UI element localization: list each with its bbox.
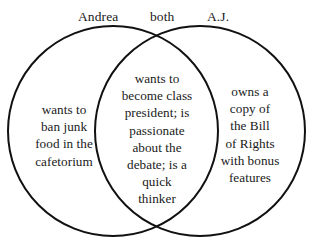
venn-region-intersection-text: wants tobecome classpresident; ispassion… xyxy=(108,70,206,208)
venn-region-left-text: wants toban junkfood in thecafetorium xyxy=(14,101,114,170)
venn-text-line: wants to xyxy=(108,70,206,87)
venn-text-line: about the xyxy=(108,139,206,156)
venn-text-line: passionate xyxy=(108,122,206,139)
venn-text-line: president; is xyxy=(108,104,206,121)
venn-text-line: quick xyxy=(108,173,206,190)
venn-diagram-page: Andrea both A.J. wants toban junkfood in… xyxy=(0,0,313,248)
venn-text-line: owns a xyxy=(203,83,297,100)
venn-text-line: wants to xyxy=(14,101,114,118)
venn-text-line: of Rights xyxy=(203,135,297,152)
venn-text-line: food in the xyxy=(14,135,114,152)
venn-region-right-text: owns acopy ofthe Billof Rightswith bonus… xyxy=(203,83,297,186)
venn-text-line: copy of xyxy=(203,100,297,117)
venn-text-line: thinker xyxy=(108,190,206,207)
venn-text-line: features xyxy=(203,169,297,186)
venn-text-line: become class xyxy=(108,87,206,104)
venn-text-line: debate; is a xyxy=(108,156,206,173)
venn-text-line: with bonus xyxy=(203,152,297,169)
venn-text-line: cafetorium xyxy=(14,153,114,170)
venn-text-line: the Bill xyxy=(203,117,297,134)
venn-text-line: ban junk xyxy=(14,118,114,135)
